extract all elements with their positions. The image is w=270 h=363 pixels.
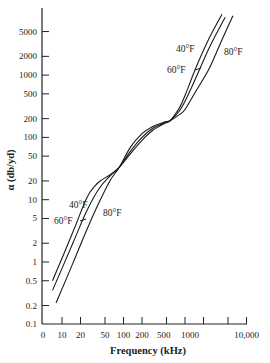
x-tick-label: 20 [76,330,86,340]
y-tick-label: 50 [28,151,38,161]
y-tick-label: 100 [24,132,38,142]
curve-40f [53,14,223,281]
y-axis-title: α (db/yd) [5,149,17,191]
x-tick-label: 10,000 [234,330,259,340]
y-tick-label: 1000 [19,70,38,80]
axes [42,8,247,324]
series-label: 80°F [103,208,122,218]
x-tick-label: 1000 [181,330,200,340]
y-tick-label: 2 [33,238,38,248]
x-tick-label: 500 [157,330,171,340]
y-tick-label: 5 [33,213,38,223]
series-label: 60°F [167,65,186,75]
x-axis-title: Frequency (kHz) [110,345,186,357]
series-label: 60°F [54,216,73,226]
x-tick-label: 200 [135,330,149,340]
y-tick-label: 10 [28,195,38,205]
y-tick-label: 20 [28,176,38,186]
y-ticks: 0.10.20.5125102050100200500100020005000 [19,27,49,330]
y-tick-label: 0.2 [26,301,37,311]
series-labels: 40°F60°F80°F40°F60°F80°F [54,44,243,226]
series-label: 80°F [224,47,243,57]
y-tick-label: 200 [24,114,38,124]
curve-80f [56,16,233,303]
curves [53,14,233,303]
y-tick-label: 2000 [19,51,38,61]
y-tick-label: 1 [33,257,38,267]
x-origin-label: 0 [41,330,46,340]
y-tick-label: 0.5 [26,276,38,286]
series-label: 40°F [176,44,195,54]
x-tick-label: 10 [58,330,68,340]
series-label: 40°F [69,200,88,210]
y-tick-label: 0.1 [26,319,37,329]
y-tick-label: 5000 [19,27,38,37]
y-tick-label: 500 [24,89,38,99]
x-tick-label: 100 [117,330,131,340]
x-tick-label: 50 [100,330,110,340]
x-ticks: 0102050100200500100010,000 [41,317,260,340]
attenuation-chart: 0.10.20.5125102050100200500100020005000 … [0,0,270,363]
